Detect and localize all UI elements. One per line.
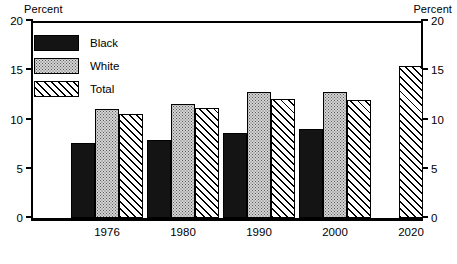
bar-1980-white <box>171 104 195 218</box>
left-tick-label-0: 0 <box>17 213 23 224</box>
bar-group-1980 <box>147 23 219 218</box>
legend-item-white: White <box>34 56 119 75</box>
legend-item-black: Black <box>34 33 119 52</box>
bar-2000-black <box>299 129 323 218</box>
stippled-white-swatch <box>34 58 79 74</box>
bar-1976-white <box>95 109 119 218</box>
bar-1980-black <box>147 140 171 218</box>
left-tick-label-5: 5 <box>17 164 23 175</box>
legend-label-white: White <box>90 60 119 72</box>
bar-2020-total <box>399 66 423 218</box>
legend-label-black: Black <box>90 37 118 49</box>
legend-label-total: Total <box>90 83 114 95</box>
left-axis-caption: Percent <box>24 3 63 15</box>
chart-legend: BlackWhiteTotal <box>34 33 119 102</box>
right-axis-caption: Percent <box>413 3 452 15</box>
x-axis-label-2000: 2000 <box>322 226 348 238</box>
bar-1976-total <box>119 114 143 218</box>
left-tick-5 <box>26 167 33 169</box>
x-axis-label-1980: 1980 <box>170 226 196 238</box>
bar-1976-black <box>71 143 95 218</box>
x-axis-label-2020: 2020 <box>398 226 424 238</box>
right-tick-label-5: 5 <box>431 164 437 175</box>
bar-1990-total <box>271 99 295 218</box>
right-tick-label-0: 0 <box>431 213 437 224</box>
bar-2000-total <box>347 100 371 218</box>
left-tick-label-20: 20 <box>10 16 23 27</box>
right-tick-20 <box>421 19 428 21</box>
bar-group-1990 <box>223 23 295 218</box>
left-tick-10 <box>26 118 33 120</box>
x-axis-label-1976: 1976 <box>94 226 120 238</box>
bar-chart: Percent Percent 05101520 05101520 197619… <box>0 0 457 264</box>
solid-black-swatch <box>34 35 79 51</box>
bar-2000-white <box>323 92 347 218</box>
bar-1990-white <box>247 92 271 218</box>
bar-1980-total <box>195 108 219 218</box>
left-tick-20 <box>26 19 33 21</box>
bar-1990-black <box>223 133 247 218</box>
right-tick-label-20: 20 <box>431 16 444 27</box>
right-tick-label-10: 10 <box>431 115 444 126</box>
x-axis-label-1990: 1990 <box>246 226 272 238</box>
legend-item-total: Total <box>34 79 119 98</box>
diagonal-hatch-swatch <box>34 81 79 97</box>
right-tick-label-15: 15 <box>431 65 444 76</box>
left-tick-label-15: 15 <box>10 65 23 76</box>
bar-group-2000 <box>299 23 371 218</box>
left-tick-0 <box>26 216 33 218</box>
left-tick-label-10: 10 <box>10 115 23 126</box>
bar-group-2020 <box>399 23 423 218</box>
left-tick-15 <box>26 68 33 70</box>
